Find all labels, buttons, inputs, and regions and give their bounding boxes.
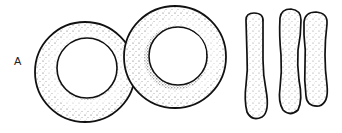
- face-on-cell-2: [124, 6, 226, 108]
- side-profile-cell-1: [245, 13, 267, 119]
- side-profile-cell-2: [279, 9, 301, 114]
- rbc-illustration: [0, 0, 342, 133]
- side-profile-cell-3: [304, 12, 327, 106]
- face-on-cell-1: [35, 22, 135, 122]
